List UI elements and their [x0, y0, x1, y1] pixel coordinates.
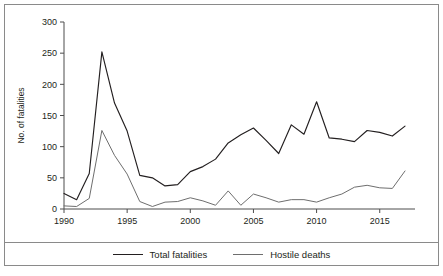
y-tick-label: 50 [47, 173, 57, 183]
y-tick-label: 250 [42, 48, 57, 58]
x-tick-label: 2015 [370, 216, 390, 226]
series-group [64, 52, 405, 207]
legend-label-total-fatalities: Total fatalities [150, 249, 208, 260]
line-chart-svg: 050100150200250300 199019952000200520102… [0, 0, 443, 276]
x-tick-label: 1995 [117, 216, 137, 226]
legend-label-hostile-deaths: Hostile deaths [270, 249, 330, 260]
plot-area: 050100150200250300 199019952000200520102… [0, 0, 443, 276]
chart-figure: 050100150200250300 199019952000200520102… [0, 0, 443, 276]
y-axis-title: No. of fatalities [16, 87, 26, 143]
x-axis: 199019952000200520102015 [54, 209, 415, 226]
legend-swatch-total-fatalities [113, 254, 143, 255]
y-tick-label: 0 [52, 204, 57, 214]
x-tick-label: 2000 [180, 216, 200, 226]
x-tick-label: 2005 [243, 216, 263, 226]
legend-swatch-hostile-deaths [233, 254, 263, 255]
y-tick-label: 150 [42, 111, 57, 121]
legend-item-total-fatalities[interactable]: Total fatalities [113, 249, 208, 260]
chart-legend: Total fatalities Hostile deaths [5, 243, 438, 265]
y-tick-label: 200 [42, 80, 57, 90]
y-axis: 050100150200250300 [42, 17, 64, 214]
series-line-total-fatalities [64, 52, 405, 200]
x-tick-label: 1990 [54, 216, 74, 226]
y-axis-title-text: No. of fatalities [16, 87, 26, 143]
legend-item-hostile-deaths[interactable]: Hostile deaths [233, 249, 330, 260]
y-tick-label: 100 [42, 142, 57, 152]
x-tick-label: 2010 [307, 216, 327, 226]
y-tick-label: 300 [42, 17, 57, 27]
